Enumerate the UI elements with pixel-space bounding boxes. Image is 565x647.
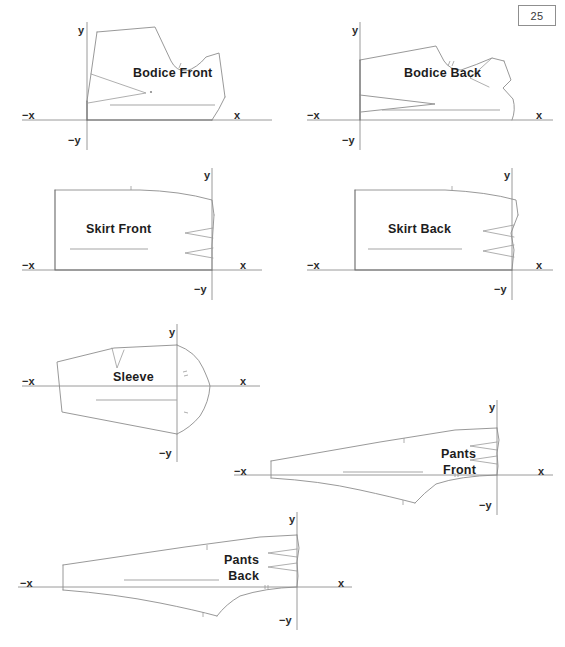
axis-label-neg-x-pants-back: −x (20, 578, 33, 589)
axis-label-y-skirt-back: y (504, 170, 510, 181)
axis-label-y-pants-front: y (489, 402, 495, 413)
figure-pants-front (234, 400, 553, 515)
sleeve-cap-dart (112, 348, 124, 368)
piece-label-bodice-back: Bodice Back (404, 66, 481, 82)
sleeve-underarm-outline (57, 345, 177, 434)
axis-label-x-bodice-back: x (536, 110, 542, 121)
piece-label-sleeve: Sleeve (113, 370, 154, 386)
piece-label-line: Front (441, 463, 476, 479)
piece-label-pants-back: PantsBack (224, 553, 259, 584)
diagram-page: 25 Bodice Frontx−xy−yBodice Backx−xy−ySk… (0, 0, 565, 647)
bodice-back-armhole-side (503, 61, 514, 120)
axis-label-neg-y-skirt-front: −y (194, 284, 207, 295)
pants-back-inseam-lower (63, 590, 217, 616)
skirt-front-waistline (55, 190, 214, 215)
axis-label-x-skirt-front: x (240, 260, 246, 271)
axis-label-neg-x-sleeve: −x (22, 376, 35, 387)
axis-label-x-skirt-back: x (536, 260, 542, 271)
piece-label-bodice-front: Bodice Front (133, 66, 212, 82)
piece-label-line: Skirt Back (388, 222, 451, 238)
pattern-diagram-canvas (0, 0, 565, 647)
page-number: 25 (530, 10, 543, 22)
axis-label-y-pants-back: y (289, 514, 295, 525)
bodice-front-center-front (87, 32, 97, 101)
axis-label-neg-y-pants-back: −y (279, 615, 292, 626)
piece-label-line: Bodice Back (404, 66, 481, 82)
pants-back-waist-edge (63, 535, 297, 565)
skirt-back-dart-2 (483, 245, 514, 257)
sleeve-front-notch (183, 371, 188, 376)
skirt-back-waistline (355, 190, 518, 215)
sleeve-back-notch (184, 412, 188, 413)
piece-label-line: Bodice Front (133, 66, 212, 82)
axis-label-neg-y-bodice-back: −y (342, 135, 355, 146)
axis-label-neg-y-bodice-front: −y (68, 135, 81, 146)
axis-label-neg-x-skirt-front: −x (22, 260, 35, 271)
axis-label-y-bodice-front: y (78, 25, 84, 36)
bodice-front-dart-point (150, 91, 152, 93)
figure-bodice-front (22, 22, 272, 150)
piece-label-line: Back (224, 569, 259, 585)
piece-label-skirt-front: Skirt Front (86, 222, 151, 238)
axis-label-neg-x-skirt-back: −x (307, 260, 320, 271)
axis-label-neg-x-bodice-front: −x (22, 110, 35, 121)
axis-label-neg-y-skirt-back: −y (494, 284, 507, 295)
piece-label-skirt-back: Skirt Back (388, 222, 451, 238)
piece-label-line: Pants (224, 553, 259, 569)
piece-label-line: Pants (441, 447, 476, 463)
axis-label-x-sleeve: x (240, 376, 246, 387)
figure-bodice-back (307, 22, 553, 150)
skirt-front-dart-1 (185, 228, 213, 238)
figure-sleeve (22, 324, 260, 462)
bodice-front-upper-outline (97, 27, 225, 97)
figure-pants-back (18, 512, 352, 630)
axis-label-neg-y-sleeve: −y (159, 448, 172, 459)
sleeve-cap-curve (177, 345, 210, 434)
axis-label-neg-x-bodice-back: −x (307, 110, 320, 121)
axis-label-y-skirt-front: y (204, 170, 210, 181)
skirt-back-dart-1 (483, 225, 514, 237)
axis-label-x-bodice-front: x (234, 110, 240, 121)
pants-back-dart-1 (268, 549, 297, 557)
axis-label-y-sleeve: y (169, 327, 175, 338)
axis-label-y-bodice-back: y (352, 25, 358, 36)
axis-label-neg-y-pants-front: −y (479, 500, 492, 511)
pants-front-inseam-lower (271, 478, 415, 503)
pants-back-dart-2 (268, 563, 297, 571)
bodice-front-side-curve (212, 97, 225, 120)
axis-label-neg-x-pants-front: −x (234, 466, 247, 477)
piece-label-line: Skirt Front (86, 222, 151, 238)
page-number-box: 25 (518, 5, 556, 26)
pants-back-crotch-curve (217, 587, 297, 616)
piece-label-line: Sleeve (113, 370, 154, 386)
axis-label-x-pants-front: x (538, 466, 544, 477)
piece-label-pants-front: PantsFront (441, 447, 476, 478)
axis-label-x-pants-back: x (338, 578, 344, 589)
skirt-front-dart-2 (185, 248, 213, 258)
